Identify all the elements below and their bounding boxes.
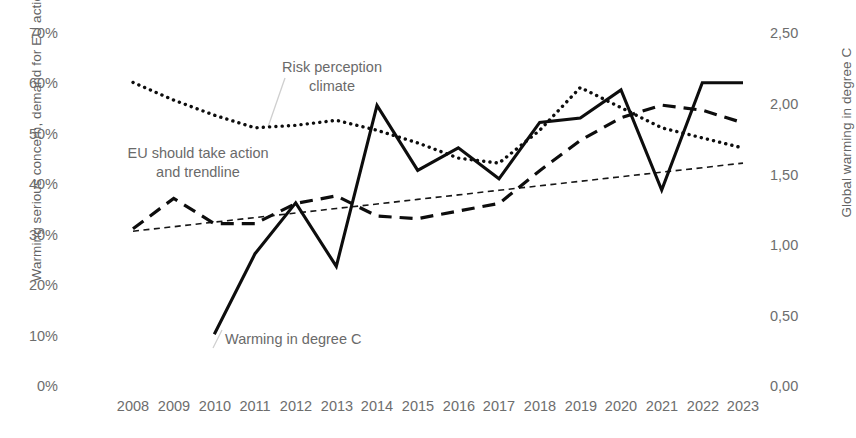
risk-perception-label: Risk perception climate xyxy=(252,58,412,96)
warming-label: Warming in degree C xyxy=(225,330,425,349)
series-warming-degree-c xyxy=(214,83,743,334)
eu-action-label: EU should take action and trendline xyxy=(88,144,308,182)
